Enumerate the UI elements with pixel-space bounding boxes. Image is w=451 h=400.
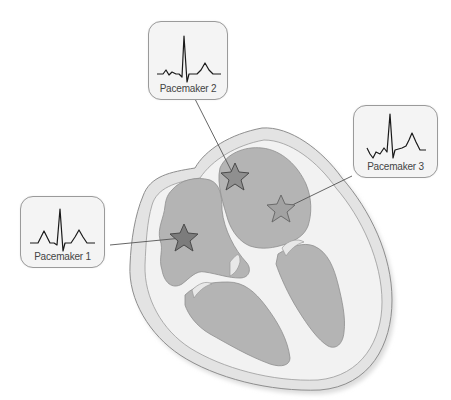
pacemaker-diagram: Pacemaker 1 Pacemaker 2 Pacemaker 3	[0, 0, 451, 400]
pacemaker-3-ecg-box: Pacemaker 3	[353, 105, 438, 178]
pacemaker-2-label: Pacemaker 2	[149, 83, 227, 94]
pacemaker-1-label: Pacemaker 1	[21, 251, 104, 262]
pacemaker-1-ecg-box: Pacemaker 1	[20, 196, 105, 268]
pacemaker-2-ecg-box: Pacemaker 2	[148, 21, 228, 100]
pacemaker-3-label: Pacemaker 3	[354, 161, 437, 172]
